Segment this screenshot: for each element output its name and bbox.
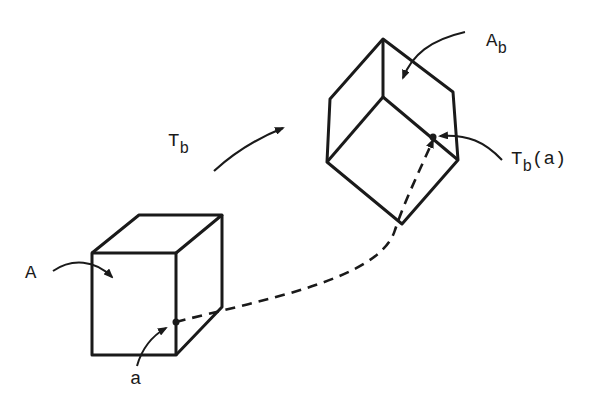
- cube-a-b: [327, 39, 458, 224]
- label-tb: Tb: [168, 132, 189, 151]
- point-a: [173, 319, 180, 326]
- label-ab-sub: b: [497, 40, 507, 58]
- label-tb-a-suffix: (a): [532, 148, 566, 170]
- point-tb-a: [430, 134, 437, 141]
- arrow-ab-label: [403, 32, 465, 78]
- label-tb-a: Tb(a): [511, 150, 566, 169]
- label-tb-sub: b: [179, 140, 189, 158]
- label-ab-base: A: [486, 30, 497, 52]
- arrow-a-label: [53, 263, 112, 277]
- mapping-path: [176, 140, 433, 322]
- arrow-transformation: [214, 128, 283, 171]
- label-ab: Ab: [486, 32, 507, 51]
- arrow-a-point: [137, 328, 166, 366]
- diagram-canvas: A a Tb Ab Tb(a): [0, 0, 592, 405]
- arrow-tba-label: [440, 136, 502, 160]
- diagram-drawing: [0, 0, 592, 405]
- label-a: a: [130, 370, 141, 389]
- label-A-text: A: [25, 262, 36, 284]
- label-A: A: [25, 264, 36, 283]
- label-tb-base: T: [168, 130, 179, 152]
- label-a-text: a: [130, 368, 141, 390]
- label-tb-a-sub: b: [522, 158, 532, 176]
- label-tb-a-base: T: [511, 148, 522, 170]
